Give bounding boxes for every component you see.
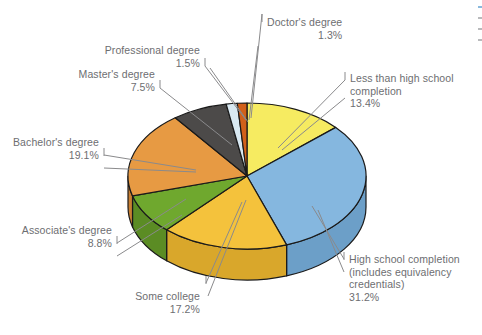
- label-masters-degree-text: Master's degree: [79, 68, 155, 80]
- label-bachelors-degree-percent: 19.1%: [0, 149, 99, 162]
- label-less-than-hs-line2: completion: [350, 85, 454, 98]
- label-less-than-hs-line1: Less than high school: [350, 72, 454, 84]
- label-high-school-line3: credentials): [349, 278, 460, 291]
- label-doctors-degree: Doctor's degree 1.3%: [267, 16, 342, 41]
- label-some-college-percent: 17.2%: [104, 303, 200, 316]
- label-some-college: Some college 17.2%: [104, 290, 200, 315]
- pie-chart-figure: Doctor's degree 1.3% Professional degree…: [0, 0, 482, 335]
- page-edge-sliver: [478, 6, 482, 58]
- label-associates-degree-text: Associate's degree: [22, 224, 112, 236]
- edge-mark-3: [478, 28, 482, 30]
- label-less-than-high-school: Less than high school completion 13.4%: [350, 72, 454, 110]
- label-associates-degree-percent: 8.8%: [8, 237, 112, 250]
- label-masters-degree-percent: 7.5%: [55, 81, 155, 94]
- edge-mark-2: [478, 17, 482, 19]
- label-doctors-degree-percent: 1.3%: [267, 29, 342, 42]
- leader-doctors-a: [251, 14, 262, 118]
- label-masters-degree: Master's degree 7.5%: [55, 68, 155, 93]
- label-doctors-degree-text: Doctor's degree: [267, 16, 342, 28]
- label-high-school-line1: High school completion: [349, 253, 460, 265]
- label-professional-degree: Professional degree 1.5%: [90, 44, 200, 69]
- label-less-than-hs-percent: 13.4%: [350, 97, 454, 110]
- label-bachelors-degree: Bachelor's degree 19.1%: [0, 136, 99, 161]
- label-associates-degree: Associate's degree 8.8%: [8, 224, 112, 249]
- label-high-school-percent: 31.2%: [349, 291, 460, 304]
- label-bachelors-degree-text: Bachelor's degree: [13, 136, 99, 148]
- label-high-school-completion: High school completion (includes equival…: [349, 253, 460, 303]
- label-some-college-text: Some college: [135, 290, 200, 302]
- label-professional-degree-text: Professional degree: [105, 44, 200, 56]
- label-high-school-line2: (includes equivalency: [349, 266, 460, 279]
- edge-mark-1: [478, 6, 482, 8]
- edge-mark-4: [478, 39, 482, 41]
